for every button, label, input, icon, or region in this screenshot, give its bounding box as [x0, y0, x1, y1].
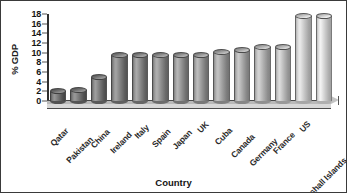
bar-france [275, 44, 291, 101]
bar-marshall-islands [316, 13, 332, 101]
bar-cylinder-top [152, 52, 168, 58]
x-axis-tick-label-italy: Italy [132, 122, 150, 140]
chart-floor-front [47, 104, 331, 109]
x-axis-tick-label-japan: Japan [170, 128, 194, 152]
y-axis-title-text: % GDP [9, 44, 20, 75]
bar-cuba [213, 49, 229, 101]
plot-area [48, 14, 334, 101]
x-axis-title: Country [1, 177, 346, 188]
bar-cylinder-top [193, 52, 209, 58]
bar-germany [254, 44, 270, 101]
y-axis-tick-label: 18 [21, 10, 41, 19]
bar-cylinder-body [295, 16, 311, 101]
bar-us [295, 13, 311, 101]
bar-cylinder-body [234, 50, 250, 101]
bar-cylinder-top [213, 49, 229, 55]
bar-cylinder-body [275, 47, 291, 101]
bar-ireland [111, 52, 127, 101]
y-axis-tick-label: 16 [21, 19, 41, 28]
bar-italy [132, 52, 148, 101]
y-axis-title: % GDP [7, 31, 21, 87]
bar-cylinder-top [91, 74, 107, 80]
bar-cylinder-top [173, 52, 189, 58]
y-axis-tick-label: 10 [21, 48, 41, 57]
y-axis-tick-labels: 024681012141618 [21, 14, 41, 100]
bar-cylinder-top [316, 13, 332, 19]
x-axis-tick-labels: QatarPakistanChinaIrelandItalySpainJapan… [48, 111, 334, 181]
chart-figure: % GDP 024681012141618 QatarPakistanChina… [0, 0, 347, 193]
bar-cylinder-body [193, 55, 209, 101]
x-axis-tick-label-us: US [298, 119, 313, 134]
bar-cylinder-top [254, 44, 270, 50]
bar-cylinder-body [152, 55, 168, 101]
bar-cylinder-body [254, 47, 270, 101]
bar-qatar [50, 88, 66, 101]
bar-cylinder-body [316, 16, 332, 101]
bar-cylinder-top [295, 13, 311, 19]
y-axis-tick-label: 4 [21, 77, 41, 86]
bar-cylinder-top [132, 52, 148, 58]
bar-cylinder-body [91, 77, 107, 101]
x-axis-tick-label-qatar: Qatar [48, 126, 70, 148]
bar-cylinder-body [111, 55, 127, 101]
bar-cylinder-top [111, 52, 127, 58]
y-axis-tick-label: 8 [21, 58, 41, 67]
bar-china [91, 74, 107, 101]
y-axis-tick-label: 12 [21, 39, 41, 48]
x-axis-tick-label-pakistan: Pakistan [64, 135, 95, 166]
bar-japan [173, 52, 189, 101]
bar-cylinder-body [132, 55, 148, 101]
x-axis-tick-label-cuba: Cuba [212, 125, 234, 147]
x-axis-tick-label-spain: Spain [150, 127, 173, 150]
bar-pakistan [70, 87, 86, 101]
bar-cylinder-body [213, 52, 229, 101]
bar-uk [193, 52, 209, 101]
y-axis-tick-label: 6 [21, 68, 41, 77]
bar-cylinder-top [234, 47, 250, 53]
y-axis-tick-label: 2 [21, 87, 41, 96]
bar-spain [152, 52, 168, 101]
bar-cylinder-body [173, 55, 189, 101]
x-axis-tick-label-uk: UK [195, 119, 210, 134]
y-axis-tick-label: 14 [21, 29, 41, 38]
bar-cylinder-top [275, 44, 291, 50]
bar-canada [234, 47, 250, 101]
y-axis-tick-label: 0 [21, 97, 41, 106]
